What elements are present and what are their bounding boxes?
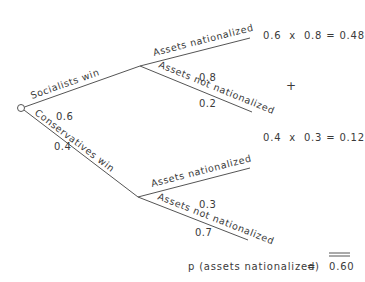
prob-conservatives-win: 0.4 (54, 141, 71, 152)
product-socialists: 0.6 x 0.8 = 0.48 (263, 30, 365, 41)
plus-sign: + (286, 79, 297, 93)
total-value: 0.60 (329, 261, 354, 272)
prob-lower-assets-not-nationalized: 0.7 (195, 227, 212, 238)
branch-conservatives-win (24, 110, 138, 197)
label-upper-assets-not-nationalized: Assets not nationalized (157, 59, 276, 116)
product-conservatives: 0.4 x 0.3 = 0.12 (263, 132, 365, 143)
total-equals: = (307, 261, 316, 272)
label-lower-assets-nationalized: Assets nationalized (150, 152, 253, 189)
root-node-icon (18, 105, 25, 112)
prob-upper-assets-not-nationalized: 0.2 (199, 98, 216, 109)
label-upper-assets-nationalized: Assets nationalized (152, 22, 255, 58)
total-label: p (assets nationalized) (188, 261, 320, 272)
label-conservatives-win: Conservatives win (33, 107, 117, 174)
probability-tree-diagram: Socialists win 0.6 Conservatives win 0.4… (0, 0, 365, 282)
